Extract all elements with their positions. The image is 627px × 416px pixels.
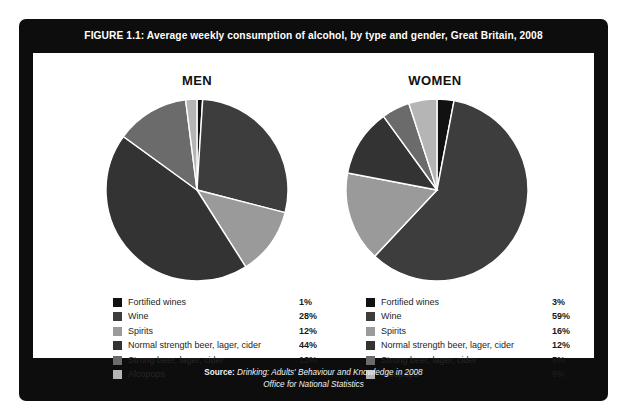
legend-swatch-icon bbox=[366, 341, 375, 350]
legend-item: Normal strength beer, lager, cider12% bbox=[366, 338, 596, 352]
pie-slices-men bbox=[106, 99, 288, 281]
source-title: Drinking: Adults' Behaviour and Knowledg… bbox=[235, 368, 423, 377]
figure-frame: FIGURE 1.1: Average weekly consumption o… bbox=[19, 19, 608, 401]
legend-swatch-icon bbox=[113, 327, 122, 336]
legend-item-label: Fortified wines bbox=[381, 295, 439, 309]
source-organisation: Office for National Statistics bbox=[19, 379, 608, 391]
legend-item: Wine59% bbox=[366, 309, 596, 323]
source-label: Source: bbox=[204, 368, 234, 377]
legend-item-value: 44% bbox=[299, 338, 317, 352]
legend-item-label: Spirits bbox=[128, 324, 153, 338]
pie-chart-women-svg bbox=[344, 97, 530, 283]
legend-item-value: 12% bbox=[552, 338, 570, 352]
legend-item-label: Wine bbox=[381, 309, 402, 323]
legend-swatch-icon bbox=[113, 312, 122, 321]
pie-slices-women bbox=[346, 99, 528, 281]
figure-content-panel: MEN WOMEN Fortified wines1%Wine28%Spirit… bbox=[33, 53, 594, 358]
legend-item-label: Wine bbox=[128, 309, 149, 323]
chart-heading-men: MEN bbox=[67, 73, 327, 88]
legend-item-value: 3% bbox=[552, 295, 565, 309]
figure-source: Source: Drinking: Adults' Behaviour and … bbox=[19, 360, 608, 401]
legend-item-label: Fortified wines bbox=[128, 295, 186, 309]
legend-item-value: 1% bbox=[299, 295, 312, 309]
legend-swatch-icon bbox=[113, 341, 122, 350]
legend-item: Fortified wines1% bbox=[113, 295, 343, 309]
source-line-1: Source: Drinking: Adults' Behaviour and … bbox=[19, 367, 608, 379]
legend-item-value: 59% bbox=[552, 309, 570, 323]
pie-chart-men-svg bbox=[104, 97, 290, 283]
legend-item: Wine28% bbox=[113, 309, 343, 323]
legend-item: Normal strength beer, lager, cider44% bbox=[113, 338, 343, 352]
legend-swatch-icon bbox=[366, 312, 375, 321]
pie-chart-men bbox=[104, 97, 290, 283]
pie-chart-women bbox=[344, 97, 530, 283]
chart-heading-women: WOMEN bbox=[305, 73, 565, 88]
legend-item-value: 12% bbox=[299, 324, 317, 338]
legend-item-value: 16% bbox=[552, 324, 570, 338]
legend-item-value: 28% bbox=[299, 309, 317, 323]
legend-swatch-icon bbox=[113, 298, 122, 307]
figure-container: FIGURE 1.1: Average weekly consumption o… bbox=[0, 0, 627, 416]
legend-item: Spirits12% bbox=[113, 324, 343, 338]
legend-item: Fortified wines3% bbox=[366, 295, 596, 309]
figure-title: FIGURE 1.1: Average weekly consumption o… bbox=[19, 19, 608, 53]
legend-swatch-icon bbox=[366, 327, 375, 336]
legend-item-label: Spirits bbox=[381, 324, 406, 338]
legend-swatch-icon bbox=[366, 298, 375, 307]
legend-item: Spirits16% bbox=[366, 324, 596, 338]
legend-item-label: Normal strength beer, lager, cider bbox=[381, 338, 514, 352]
legend-item-label: Normal strength beer, lager, cider bbox=[128, 338, 261, 352]
